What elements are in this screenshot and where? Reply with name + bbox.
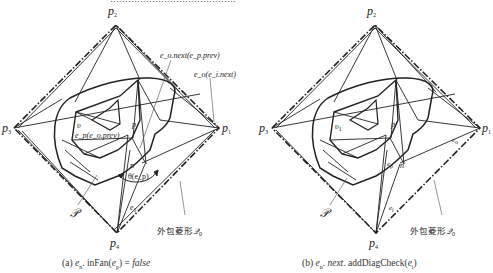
edge-label-eo: eo: [452, 136, 458, 146]
figure-a: p2 p1 p3 p4 e_o.next(e_p.prev) e_o(e_i.n…: [0, 0, 250, 273]
hull-label: 外包菱形𝒬0: [410, 224, 455, 240]
vertex-label-v1: υ1: [335, 122, 342, 134]
figure-b: p2 p1 p3 p4 υ1 p n ep eo ei 𝒫 外包菱形𝒬0 (b)…: [250, 0, 493, 273]
annotation-ep-eo-prev: e_p(e_o.prev): [75, 131, 119, 140]
vertex-label-p1: p1: [482, 122, 491, 138]
vertex-label-n: n: [130, 161, 134, 170]
caption-b: (b) en. next. addDiagCheck(ei): [302, 258, 417, 270]
caption-a: (a) en. inFan(ep) = false: [62, 258, 150, 270]
angle-label-theta: θ(e_p): [128, 172, 149, 181]
vertex-label-p3: p3: [259, 122, 268, 138]
annotation-eo-next-ep-prev: e_o.next(e_p.prev): [160, 51, 220, 60]
vertex-label-p: p: [132, 120, 136, 129]
edge-label-ei: ei: [389, 204, 394, 214]
vertex-label-p4: p4: [110, 237, 119, 253]
figure-a-diagram: [0, 0, 250, 273]
polygon-label-script-p: 𝒫: [70, 207, 79, 219]
outer-rhombus: [272, 25, 480, 233]
annotation-eo-ei-next: e_o(e_i.next): [194, 70, 236, 79]
vertex-label-p4: p4: [369, 237, 378, 253]
vertex-label-v: υ: [77, 121, 81, 130]
polygon-label-script-p: 𝒫: [320, 207, 329, 219]
vertex-label-p3: p3: [2, 122, 11, 138]
vertex-label-n: n: [400, 161, 404, 170]
edge-label-e1: e1: [130, 203, 137, 215]
edge-label-ep: ep: [387, 160, 393, 170]
vertex-label-p2: p2: [108, 5, 117, 21]
vertex-label-p: p: [391, 120, 395, 129]
vertex-label-p2: p2: [367, 5, 376, 21]
vertex-label-p1: p1: [222, 122, 231, 138]
hull-label: 外包菱形𝒬0: [157, 224, 202, 240]
